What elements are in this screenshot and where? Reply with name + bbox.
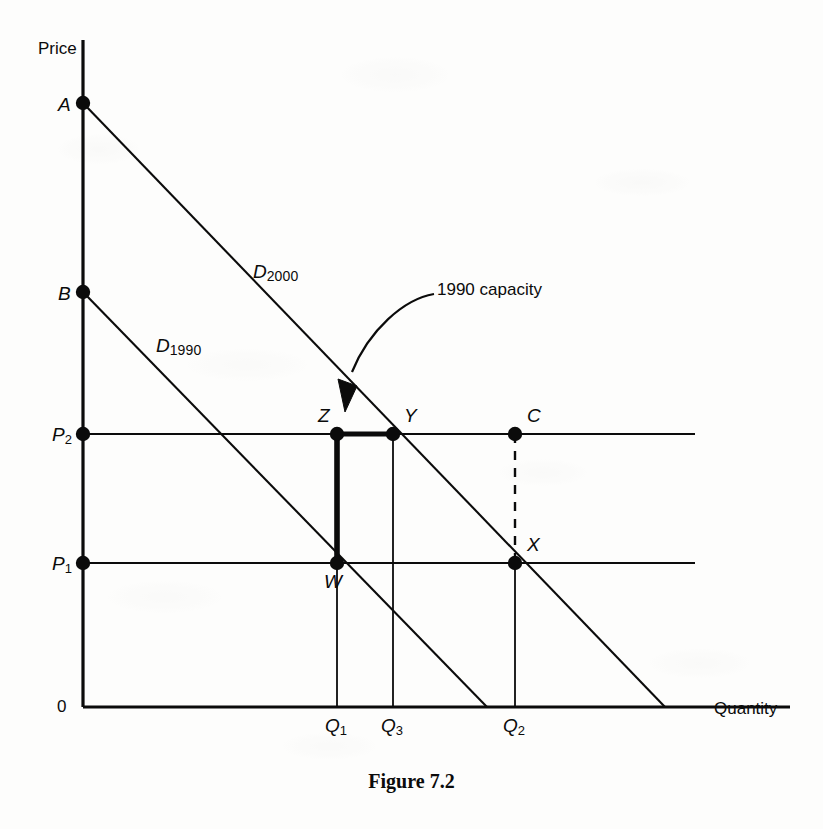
price-tick-p1: P1 [52, 554, 72, 575]
point-label-x: X [527, 535, 540, 554]
price-tick-p2: P2 [52, 425, 72, 446]
point-dot-x [508, 556, 522, 570]
point-dot-a [76, 96, 90, 110]
quantity-tick-q3: Q3 [381, 716, 403, 737]
price-tick-p2-base: P [52, 424, 65, 445]
point-dot-c [508, 427, 522, 441]
annotation-arrow-curve [352, 294, 434, 372]
quantity-tick-q2-sub: 2 [518, 723, 525, 738]
capacity-annotation-label: 1990 capacity [437, 281, 542, 298]
curve-label-d1990: D1990 [156, 336, 201, 357]
quantity-tick-q1-sub: 1 [340, 723, 347, 738]
point-dot-w [330, 556, 344, 570]
point-dot-p2 [76, 427, 90, 441]
quantity-tick-q2-base: Q [503, 715, 518, 736]
point-label-a: A [58, 95, 71, 114]
price-tick-p1-sub: 1 [65, 561, 72, 576]
curve-label-d1990-sub: 1990 [170, 342, 202, 358]
curve-label-d2000: D2000 [253, 262, 298, 283]
quantity-tick-q1: Q1 [325, 716, 347, 737]
point-label-b: B [58, 284, 71, 303]
curve-label-d2000-base: D [253, 261, 267, 282]
y-axis-label: Price [38, 40, 77, 57]
point-label-w: W [324, 572, 342, 591]
point-dot-b [76, 285, 90, 299]
figure-caption: Figure 7.2 [0, 770, 823, 793]
point-label-c: C [527, 406, 541, 425]
demand-curve-2000 [83, 103, 665, 707]
quantity-tick-q2: Q2 [503, 716, 525, 737]
price-tick-p1-base: P [52, 553, 65, 574]
figure-page: Price Quantity 0 P2 P1 Q1 Q3 Q2 D2000 D1… [0, 0, 823, 829]
origin-label: 0 [57, 698, 66, 715]
quantity-tick-q1-base: Q [325, 715, 340, 736]
point-dot-z [330, 427, 344, 441]
point-dot-p1 [76, 556, 90, 570]
curve-label-d2000-sub: 2000 [267, 268, 299, 284]
x-axis-label: Quantity [714, 700, 777, 717]
quantity-tick-q3-sub: 3 [396, 723, 403, 738]
price-tick-p2-sub: 2 [65, 432, 72, 447]
curve-label-d1990-base: D [156, 335, 170, 356]
point-dot-y [386, 427, 400, 441]
point-label-y: Y [404, 406, 417, 425]
quantity-tick-q3-base: Q [381, 715, 396, 736]
point-label-z: Z [318, 406, 330, 425]
demand-curve-1990 [83, 292, 487, 707]
